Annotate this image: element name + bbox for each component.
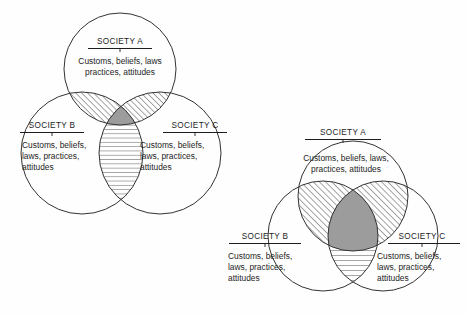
society-c-left-line-1: Customs, beliefs, bbox=[140, 140, 204, 150]
society-c-right-line-3: attitudes bbox=[377, 273, 409, 283]
figure-root: SOCIETY A Customs, beliefs, laws practic… bbox=[0, 0, 467, 316]
society-a-right-line-1: Customs, beliefs, laws, bbox=[303, 153, 389, 163]
venn-diagram-figure: SOCIETY A Customs, beliefs, laws practic… bbox=[0, 0, 467, 316]
society-a-left-title: SOCIETY A bbox=[97, 37, 143, 46]
society-b-left-line-2: laws, practices, bbox=[22, 151, 79, 161]
society-c-left-line-2: laws, practices, bbox=[140, 151, 197, 161]
society-b-left-title: SOCIETY B bbox=[29, 121, 76, 130]
society-c-right-title: SOCIETY C bbox=[398, 232, 445, 241]
society-a-right-line-2: practices, attitudes bbox=[311, 164, 381, 174]
society-b-right-line-1: Customs, beliefs, bbox=[228, 251, 292, 261]
society-c-left-title: SOCIETY C bbox=[171, 121, 218, 130]
society-b-right-line-2: laws, practices, bbox=[228, 262, 285, 272]
society-a-left-line-2: practices, attitudes bbox=[85, 67, 155, 77]
society-a-left-line-1: Customs, beliefs, laws bbox=[78, 56, 161, 66]
society-b-left-line-3: attitudes bbox=[22, 162, 54, 172]
society-c-left-line-3: attitudes bbox=[140, 162, 172, 172]
society-a-right-title: SOCIETY A bbox=[320, 128, 366, 137]
society-b-right-line-3: attitudes bbox=[228, 273, 260, 283]
society-c-right-line-2: laws, practices, bbox=[377, 262, 434, 272]
society-c-right-line-1: Customs, beliefs, bbox=[377, 251, 441, 261]
society-b-right-title: SOCIETY B bbox=[242, 232, 289, 241]
society-b-left-line-1: Customs, beliefs, bbox=[22, 140, 86, 150]
